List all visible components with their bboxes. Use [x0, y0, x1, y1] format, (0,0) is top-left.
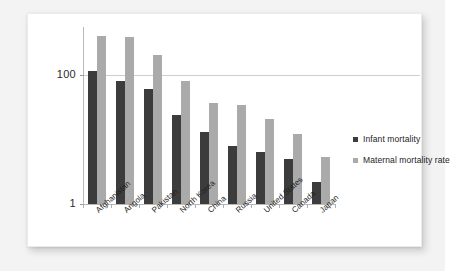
chart-legend: Infant mortalityMaternal mortality rate — [353, 134, 450, 176]
bar-pakistan-maternal — [153, 55, 162, 204]
y-axis-label-100: 100 — [38, 68, 76, 80]
legend-item-infant-mortality[interactable]: Infant mortality — [353, 134, 450, 144]
bar-canada-maternal — [293, 134, 302, 204]
y-axis-label-1: 1 — [38, 197, 76, 209]
legend-label: Maternal mortality rate — [363, 155, 450, 165]
x-tick-mark — [83, 204, 84, 208]
legend-label: Infant mortality — [363, 134, 420, 144]
legend-item-maternal-mortality-rate[interactable]: Maternal mortality rate — [353, 155, 450, 165]
chart-card: 1001 AfghanistanAngolaPakistanNorth Kore… — [27, 13, 422, 247]
bar-afghanistan-maternal — [97, 36, 106, 204]
bar-united-states-maternal — [265, 119, 274, 204]
bar-russia-maternal — [237, 105, 246, 204]
bar-russia-infant — [228, 146, 237, 204]
chart-plot-area: 1001 AfghanistanAngolaPakistanNorth Kore… — [28, 14, 421, 246]
legend-swatch-icon — [353, 137, 358, 142]
bar-north-korea-maternal — [181, 81, 190, 204]
category-labels: AfghanistanAngolaPakistanNorth KoreaChin… — [83, 14, 335, 15]
bar-afghanistan-infant — [88, 71, 97, 204]
bar-pakistan-infant — [144, 89, 153, 204]
legend-swatch-icon — [353, 158, 358, 163]
